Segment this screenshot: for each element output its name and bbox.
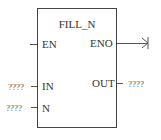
eno-arrow-icon bbox=[0, 0, 161, 140]
n-operand[interactable]: ???? bbox=[6, 102, 22, 114]
in-wire bbox=[31, 86, 37, 87]
n-pin-label: N bbox=[42, 102, 50, 114]
in-operand[interactable]: ???? bbox=[8, 81, 24, 93]
out-operand[interactable]: ???? bbox=[128, 78, 144, 90]
out-pin-label: OUT bbox=[92, 77, 115, 89]
in-pin-label: IN bbox=[42, 80, 54, 92]
n-wire bbox=[31, 107, 37, 108]
out-wire bbox=[117, 83, 123, 84]
